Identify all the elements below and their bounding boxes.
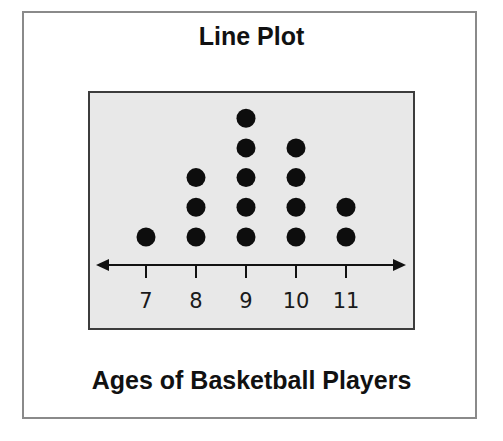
- dot-plot: 7891011: [0, 0, 503, 441]
- axis-arrow-left-icon: [96, 259, 109, 271]
- data-dot: [237, 168, 256, 187]
- x-axis-tick-label: 7: [139, 289, 152, 313]
- data-dot: [337, 198, 356, 217]
- x-axis-tick-label: 11: [333, 289, 360, 313]
- data-dot: [287, 168, 306, 187]
- data-dot: [237, 228, 256, 247]
- axis-arrow-right-icon: [393, 259, 406, 271]
- data-dot: [287, 138, 306, 157]
- data-dot: [187, 228, 206, 247]
- data-dot: [137, 228, 156, 247]
- data-dot: [237, 109, 256, 128]
- data-dot: [287, 198, 306, 217]
- x-axis-tick-label: 8: [189, 289, 202, 313]
- x-axis-tick-label: 10: [283, 289, 310, 313]
- data-dot: [337, 228, 356, 247]
- x-axis-tick-label: 9: [239, 289, 252, 313]
- data-dot: [187, 168, 206, 187]
- data-dot: [287, 228, 306, 247]
- data-dot: [237, 138, 256, 157]
- data-dot: [237, 198, 256, 217]
- data-dot: [187, 198, 206, 217]
